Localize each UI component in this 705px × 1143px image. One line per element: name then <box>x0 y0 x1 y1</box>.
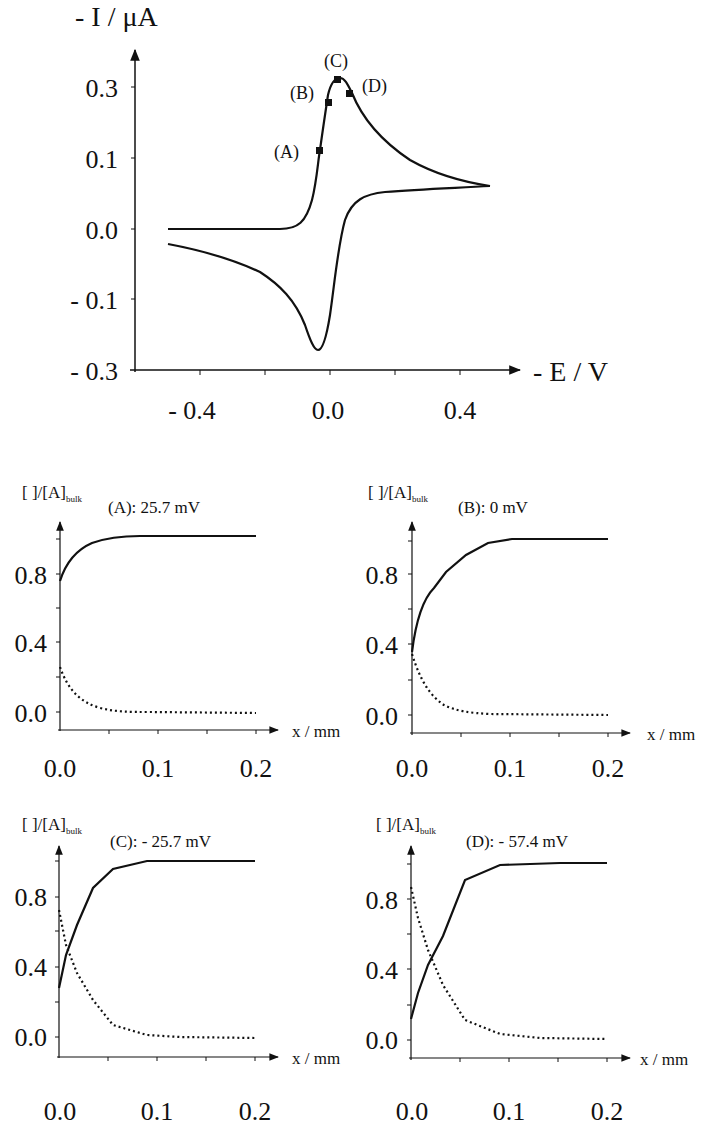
subplot-D-dotted-curve <box>411 887 607 1039</box>
svg-text:0.8: 0.8 <box>15 561 48 590</box>
cv-marker-label-D: (D) <box>362 76 387 97</box>
svg-text:0.4: 0.4 <box>366 956 399 985</box>
svg-text:0.8: 0.8 <box>366 886 399 915</box>
subplot-C-solid-curve <box>59 861 255 988</box>
cv-xtick-2: 0.4 <box>444 396 477 425</box>
subplot-D-xlabel: x / mm <box>640 1050 688 1069</box>
subplot-C-title: (C): - 25.7 mV <box>110 832 212 851</box>
cv-ytick-1: 0.1 <box>86 145 119 174</box>
subplot-C-dotted-curve <box>59 910 255 1038</box>
subplot-B-title: (B): 0 mV <box>458 498 529 517</box>
svg-text:0.0: 0.0 <box>15 1023 48 1052</box>
subplot-D-solid-curve <box>411 863 607 1019</box>
subplot-C-xlabel: x / mm <box>292 1049 340 1068</box>
subplot-A-xlabel: x / mm <box>292 722 340 741</box>
svg-text:0.8: 0.8 <box>366 561 399 590</box>
subplot-B: [ ]/[A]bulk (B): 0 mV x / mm 0.8 0.4 0.0… <box>366 483 696 783</box>
subplot-C-ylabel: [ ]/[A]bulk <box>22 815 82 836</box>
svg-text:0.1: 0.1 <box>142 754 175 783</box>
cv-marker-C <box>334 76 341 83</box>
cv-x-ticks: - 0.4 0.0 0.4 <box>168 370 476 425</box>
svg-text:0.0: 0.0 <box>44 1097 77 1126</box>
cv-xtick-0: - 0.4 <box>168 396 216 425</box>
svg-text:0.2: 0.2 <box>239 1097 272 1126</box>
svg-text:0.0: 0.0 <box>44 754 77 783</box>
subplot-B-dotted-curve <box>412 654 608 715</box>
subplot-D-ylabel: [ ]/[A]bulk <box>376 815 436 836</box>
cv-marker-label-A: (A) <box>274 142 299 163</box>
svg-text:0.4: 0.4 <box>15 629 48 658</box>
cv-xtick-1: 0.0 <box>312 396 345 425</box>
svg-text:0.0: 0.0 <box>15 699 48 728</box>
subplot-D-title: (D): - 57.4 mV <box>466 832 569 851</box>
cv-chart: - I / μA - E / V 0.3 0.1 0.0 - 0.1 - 0.3… <box>70 1 608 425</box>
cv-x-axis-label: - E / V <box>533 356 608 387</box>
svg-text:0.8: 0.8 <box>15 883 48 912</box>
cv-ytick-2: 0.0 <box>86 216 119 245</box>
cv-marker-A <box>316 147 323 154</box>
subplot-A-dotted-curve <box>60 667 256 713</box>
svg-text:0.4: 0.4 <box>366 631 399 660</box>
subplot-A-solid-curve <box>60 536 256 581</box>
subplot-D: [ ]/[A]bulk (D): - 57.4 mV x / mm 0.8 0.… <box>366 815 689 1126</box>
svg-text:0.0: 0.0 <box>396 754 429 783</box>
subplot-B-ylabel: [ ]/[A]bulk <box>368 483 428 504</box>
svg-text:0.2: 0.2 <box>591 1097 624 1126</box>
svg-text:0.2: 0.2 <box>240 754 273 783</box>
cv-ytick-0: 0.3 <box>86 74 119 103</box>
svg-text:0.1: 0.1 <box>141 1097 174 1126</box>
svg-text:0.1: 0.1 <box>494 754 527 783</box>
subplot-B-xlabel: x / mm <box>647 725 695 744</box>
svg-text:0.0: 0.0 <box>396 1097 429 1126</box>
subplot-A-ylabel: [ ]/[A]bulk <box>22 483 82 504</box>
cv-ytick-4: - 0.3 <box>70 357 118 386</box>
svg-text:0.2: 0.2 <box>592 754 625 783</box>
cv-y-ticks: 0.3 0.1 0.0 - 0.1 - 0.3 <box>70 74 135 386</box>
svg-text:0.0: 0.0 <box>366 702 399 731</box>
cv-marker-label-C: (C) <box>324 51 348 72</box>
cv-marker-D <box>346 90 353 97</box>
svg-text:0.0: 0.0 <box>366 1026 399 1055</box>
cv-marker-label-B: (B) <box>290 83 314 104</box>
subplot-C: [ ]/[A]bulk (C): - 25.7 mV x / mm 0.8 0.… <box>15 815 341 1126</box>
cv-ytick-3: - 0.1 <box>70 286 118 315</box>
subplot-A-title: (A): 25.7 mV <box>108 498 201 517</box>
cv-y-axis-label: - I / μA <box>75 1 158 32</box>
figure-canvas: - I / μA - E / V 0.3 0.1 0.0 - 0.1 - 0.3… <box>0 0 705 1143</box>
svg-text:0.1: 0.1 <box>493 1097 526 1126</box>
cv-reverse-curve <box>168 186 490 350</box>
subplot-B-solid-curve <box>412 539 608 652</box>
svg-text:0.4: 0.4 <box>15 953 48 982</box>
cv-marker-B <box>325 99 332 106</box>
subplot-A: [ ]/[A]bulk (A): 25.7 mV x / mm 0.8 0.4 … <box>15 483 341 783</box>
